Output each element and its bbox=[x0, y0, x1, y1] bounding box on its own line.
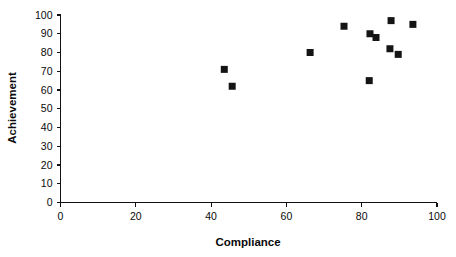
data-point bbox=[221, 66, 228, 73]
y-tick-label: 0 bbox=[47, 196, 53, 208]
y-tick-label: 20 bbox=[41, 159, 53, 171]
data-point bbox=[229, 83, 236, 90]
y-tick-label: 10 bbox=[41, 177, 53, 189]
y-tick-label: 30 bbox=[41, 140, 53, 152]
data-point bbox=[388, 17, 395, 24]
data-point bbox=[395, 51, 402, 58]
x-tick-label: 0 bbox=[58, 210, 64, 222]
x-tick-group: 020406080100 bbox=[58, 203, 446, 222]
data-point bbox=[373, 34, 380, 41]
x-tick-label: 100 bbox=[428, 210, 446, 222]
data-point bbox=[366, 30, 373, 37]
x-tick-label: 60 bbox=[281, 210, 293, 222]
data-point bbox=[409, 21, 416, 28]
data-point bbox=[386, 45, 393, 52]
y-tick-label: 50 bbox=[41, 102, 53, 114]
y-axis-title: Achievement bbox=[6, 72, 18, 144]
x-tick-label: 40 bbox=[205, 210, 217, 222]
y-tick-label: 90 bbox=[41, 27, 53, 39]
x-axis-title: Compliance bbox=[215, 236, 280, 248]
y-tick-label: 70 bbox=[41, 65, 53, 77]
plot-canvas: 0102030405060708090100 020406080100 Comp… bbox=[0, 0, 456, 257]
y-tick-group: 0102030405060708090100 bbox=[35, 9, 61, 209]
y-tick-label: 60 bbox=[41, 84, 53, 96]
data-point bbox=[366, 77, 373, 84]
data-point bbox=[307, 49, 314, 56]
x-tick-label: 80 bbox=[356, 210, 368, 222]
y-tick-label: 40 bbox=[41, 121, 53, 133]
x-tick-label: 20 bbox=[130, 210, 142, 222]
scatter-plot-figure: 0102030405060708090100 020406080100 Comp… bbox=[0, 0, 456, 257]
data-point bbox=[341, 23, 348, 30]
y-tick-label: 80 bbox=[41, 46, 53, 58]
data-point-group bbox=[221, 17, 417, 90]
y-tick-label: 100 bbox=[35, 9, 53, 21]
